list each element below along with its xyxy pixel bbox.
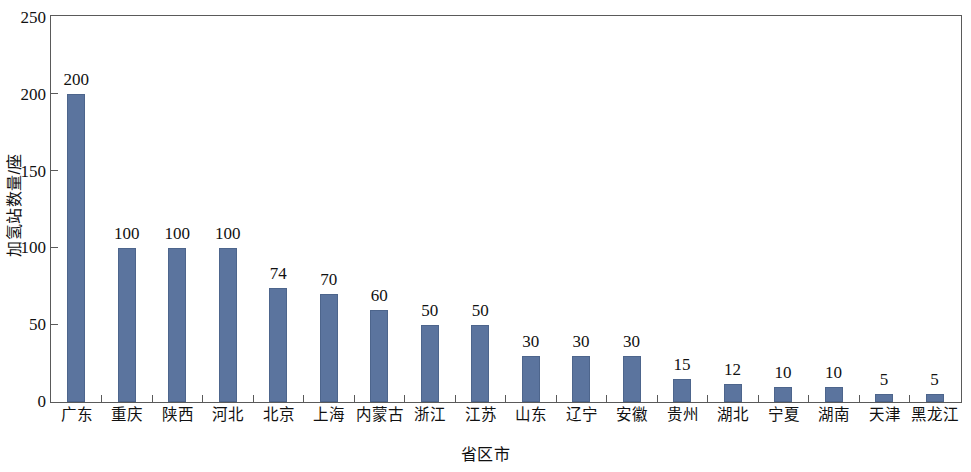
bar-slot: 50 [404,16,454,402]
bar-value-label: 5 [930,371,939,388]
y-axis-tick-label: 200 [4,85,46,102]
bar-value-label: 200 [63,71,89,88]
plot-area: 20010010010074706050503030301512101055 [50,15,962,403]
bar-slot: 5 [859,16,909,402]
x-axis-tick-label: 安徽 [616,406,648,425]
x-axis-tick-label: 重庆 [111,406,143,425]
x-axis-tick-label: 宁夏 [768,406,800,425]
x-axis-tick-label: 河北 [212,406,244,425]
bar-value-label: 15 [674,356,691,373]
bar[interactable] [67,94,85,402]
bar-slot: 100 [152,16,202,402]
bar-value-label: 100 [215,225,241,242]
bar[interactable] [269,288,287,402]
bar-value-label: 50 [421,302,438,319]
bar-value-label: 30 [573,333,590,350]
x-axis-tick-label: 浙江 [414,406,446,425]
bar-slot: 50 [455,16,505,402]
bar[interactable] [118,248,136,402]
bar-slot: 100 [202,16,252,402]
bar[interactable] [572,356,590,402]
bar-slot: 10 [808,16,858,402]
x-axis-tick-label: 黑龙江 [911,406,959,425]
y-axis-tick-label: 50 [4,316,46,333]
bar-slot: 30 [606,16,656,402]
bar-slot: 100 [101,16,151,402]
bar[interactable] [219,248,237,402]
x-axis-tick-label: 天津 [869,406,901,425]
x-axis-tick-label: 湖北 [717,406,749,425]
x-axis-tick-labels: 广东重庆陕西河北北京上海内蒙古浙江江苏山东辽宁安徽贵州湖北宁夏湖南天津黑龙江 [50,406,962,434]
x-axis-tick-label: 辽宁 [566,406,598,425]
x-axis-tick-label: 上海 [313,406,345,425]
x-axis-tick-label: 内蒙古 [356,406,404,425]
bar[interactable] [168,248,186,402]
bar-value-label: 30 [522,333,539,350]
bar[interactable] [623,356,641,402]
bar-value-label: 100 [164,225,190,242]
bar[interactable] [320,294,338,402]
x-axis-tick-label: 北京 [263,406,295,425]
bar[interactable] [421,325,439,402]
bar[interactable] [522,356,540,402]
bar-chart-figure: 加氢站数量/座 050100150200250 2001001001007470… [0,0,971,472]
bar-slot: 30 [505,16,555,402]
bar-slot: 12 [707,16,757,402]
bar[interactable] [875,394,893,402]
bar[interactable] [926,394,944,402]
bar-slot: 15 [657,16,707,402]
bar-slot: 5 [909,16,959,402]
bar-slot: 30 [556,16,606,402]
y-axis-tick-labels: 050100150200250 [0,0,46,472]
x-axis-title: 省区市 [0,441,971,465]
y-axis-tick-label: 0 [4,393,46,410]
bar[interactable] [724,384,742,402]
y-axis-tick-label: 250 [4,8,46,25]
bar-value-label: 5 [880,371,889,388]
bar-value-label: 10 [775,364,792,381]
bar-value-label: 100 [114,225,140,242]
bar-value-label: 50 [472,302,489,319]
bar[interactable] [370,310,388,402]
bar-value-label: 10 [825,364,842,381]
bar-slot: 10 [758,16,808,402]
x-axis-tick-label: 湖南 [818,406,850,425]
bar[interactable] [825,387,843,402]
y-axis-tick-label: 150 [4,162,46,179]
x-axis-tick-label: 贵州 [667,406,699,425]
x-axis-tick-label: 江苏 [465,406,497,425]
bars-container: 20010010010074706050503030301512101055 [51,16,961,402]
bar-value-label: 12 [724,361,741,378]
bar-value-label: 30 [623,333,640,350]
bar[interactable] [774,387,792,402]
x-axis-tick-label: 广东 [61,406,93,425]
bar-value-label: 60 [371,287,388,304]
bar[interactable] [673,379,691,402]
bar-slot: 200 [51,16,101,402]
bar-value-label: 74 [270,265,287,282]
x-axis-tick-label: 陕西 [162,406,194,425]
bar-slot: 74 [253,16,303,402]
bar[interactable] [471,325,489,402]
y-axis-tick-label: 100 [4,239,46,256]
bar-slot: 70 [303,16,353,402]
bar-slot: 60 [354,16,404,402]
x-axis-tick-label: 山东 [515,406,547,425]
bar-value-label: 70 [320,271,337,288]
